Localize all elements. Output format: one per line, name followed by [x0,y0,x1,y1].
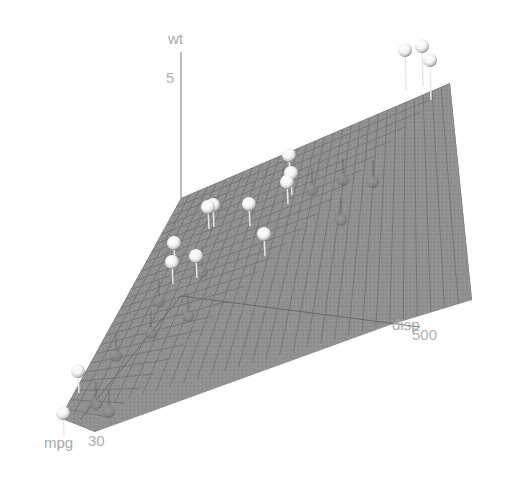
z-axis-label: wt [167,30,184,47]
y-axis-tick-500: 500 [412,326,437,343]
3d-scatter-plot[interactable]: wt 5 mpg 30 disp 500 [0,0,506,483]
x-axis-label: mpg [44,434,73,451]
regression-plane [60,83,472,432]
x-axis-tick-30: 30 [88,432,105,449]
z-axis-tick-5: 5 [166,69,174,86]
data-point [398,43,412,90]
